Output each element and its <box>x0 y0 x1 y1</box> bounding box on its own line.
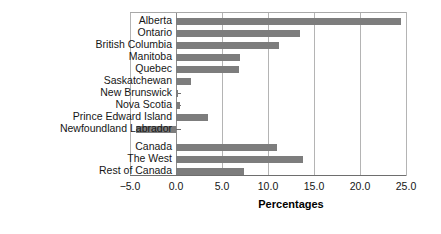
gridline-25 <box>406 12 407 176</box>
y-axis-label: Rest of Canada <box>0 165 172 176</box>
y-axis-label: Ontario <box>0 27 172 38</box>
bar <box>176 90 178 97</box>
bar <box>176 144 277 151</box>
bar <box>176 102 180 109</box>
y-axis-label: New Brunswick <box>0 87 172 98</box>
y-axis-label: Alberta <box>0 15 172 26</box>
xtick-label-0: 0.0 <box>153 180 199 192</box>
bar <box>176 42 279 49</box>
xtick-label-15: 15.0 <box>291 180 337 192</box>
bar <box>176 156 303 163</box>
bar <box>176 18 401 25</box>
xtick-label-10: 10.0 <box>245 180 291 192</box>
y-axis-label: Newfoundland Labrador <box>0 123 172 134</box>
y-axis-label: Canada <box>0 141 172 152</box>
xtick-label-20: 20.0 <box>337 180 383 192</box>
bar <box>176 66 239 73</box>
bar <box>176 78 191 85</box>
bar <box>176 54 240 61</box>
bar <box>176 30 300 37</box>
y-axis-label: Prince Edward Island <box>0 111 172 122</box>
xtick-label-25: 25.0 <box>383 180 429 192</box>
bar <box>176 168 244 175</box>
xtick-label-5: 5.0 <box>199 180 245 192</box>
y-axis-label: Quebec <box>0 63 172 74</box>
y-axis-label: The West <box>0 153 172 164</box>
y-axis-label: Nova Scotia <box>0 99 172 110</box>
xtick-label--5: −5.0 <box>107 180 153 192</box>
ytick-9 <box>176 129 181 130</box>
y-axis-labels: AlbertaOntarioBritish ColumbiaManitobaQu… <box>0 0 172 234</box>
x-axis-title: Percentages <box>176 198 406 210</box>
y-axis-label: British Columbia <box>0 39 172 50</box>
bar <box>176 114 208 121</box>
y-axis-label: Saskatchewan <box>0 75 172 86</box>
y-axis-label: Manitoba <box>0 51 172 62</box>
bar-chart: AlbertaOntarioBritish ColumbiaManitobaQu… <box>0 0 441 234</box>
